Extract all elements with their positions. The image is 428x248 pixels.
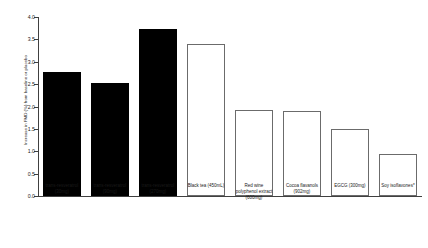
bar [43,72,81,196]
y-axis-tick-label: 3.5 [28,35,35,43]
bar [379,154,417,196]
x-axis-category-label: EGCG (300mg) [326,183,374,189]
y-axis-tick-label: 0.5 [28,170,35,178]
bar [139,29,177,196]
y-axis-tick-label: 4.0 [28,13,35,21]
y-axis-tick-label: 1.0 [28,147,35,155]
x-axis-category-label: Soy isoflavones* [374,183,422,189]
y-axis-tick-label: 2.0 [28,103,35,111]
x-axis-category-label: Black tea (450mL) [182,183,230,189]
x-axis-category-label: trans-resveratrol (270mg) [134,183,182,195]
y-axis-tick-label: 0.0 [28,192,35,200]
y-axis-label: Increase in FMD (%) from baseline or pla… [20,2,32,198]
y-axis-tick-label: 1.5 [28,125,35,133]
y-axis-line [38,17,39,196]
x-axis-category-label: Red wine polyphenol extract (600mg) [230,183,278,202]
x-axis-category-label: Cocoa flavanols (902mg) [278,183,326,195]
x-axis-category-label: trans-resveratrol (30mg) [38,183,86,195]
y-axis-tick-label: 2.5 [28,80,35,88]
bar [187,44,225,196]
bar-chart: Increase in FMD (%) from baseline or pla… [0,0,428,248]
plot-area: 0.00.51.01.52.02.53.03.54.0 [38,17,422,196]
x-axis-category-label: trans-resveratrol (90mg) [86,183,134,195]
y-axis-tick-label: 3.0 [28,58,35,66]
bar [91,83,129,196]
